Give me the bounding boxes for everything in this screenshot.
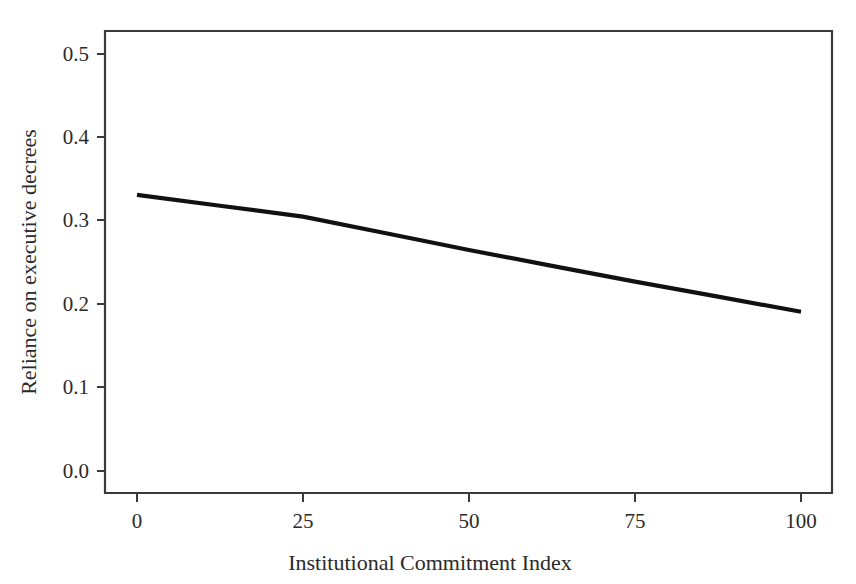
x-axis-tick-labels: 0 25 50 75 100 (132, 509, 817, 533)
y-tick-label-5: 0.5 (63, 42, 89, 66)
y-tick-label-1: 0.1 (63, 375, 89, 399)
line-chart-canvas: 0.5 0.4 0.3 0.2 0.1 0.0 0 25 50 75 100 I… (0, 0, 856, 584)
y-tick-label-2: 0.2 (63, 292, 89, 316)
x-tick-label-0: 0 (132, 509, 143, 533)
x-tick-label-2: 50 (459, 509, 480, 533)
chart-figure: 0.5 0.4 0.3 0.2 0.1 0.0 0 25 50 75 100 I… (0, 0, 856, 584)
axes-box (105, 31, 832, 493)
y-tick-label-0: 0.0 (63, 459, 89, 483)
x-axis-ticks (137, 493, 801, 502)
plot-frame (105, 31, 832, 493)
y-axis-ticks (97, 54, 105, 471)
y-tick-label-4: 0.4 (63, 125, 90, 149)
y-axis-title: Reliance on executive decrees (16, 129, 41, 395)
x-tick-label-1: 25 (293, 509, 314, 533)
data-series-line (137, 195, 801, 312)
y-tick-label-3: 0.3 (63, 208, 89, 232)
x-tick-label-4: 100 (785, 509, 817, 533)
x-axis-title: Institutional Commitment Index (288, 550, 572, 575)
x-tick-label-3: 75 (625, 509, 646, 533)
y-axis-tick-labels: 0.5 0.4 0.3 0.2 0.1 0.0 (63, 42, 90, 483)
